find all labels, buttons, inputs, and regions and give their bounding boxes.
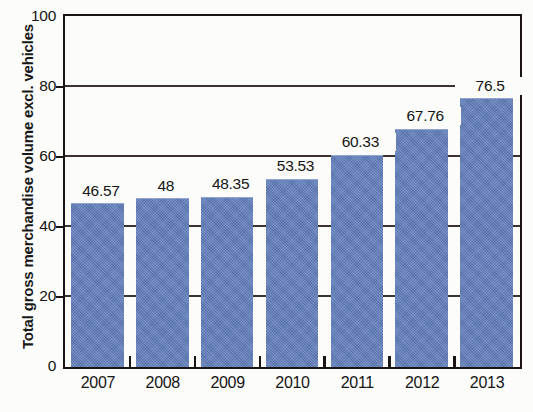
- x-axis-tick-label: 2008: [130, 374, 195, 392]
- bar-value-label: 53.53: [260, 157, 331, 175]
- bar[interactable]: [71, 203, 124, 367]
- x-axis-tick-label: 2009: [195, 374, 260, 392]
- y-axis-tick-label: 20: [10, 287, 56, 305]
- bar[interactable]: [266, 179, 319, 367]
- x-axis-tick-mark: [194, 356, 197, 367]
- bar[interactable]: [460, 98, 513, 367]
- x-axis-tick-mark: [388, 356, 391, 367]
- y-axis-tick-label: 100: [10, 7, 56, 25]
- x-axis-tick-label: 2007: [66, 374, 131, 392]
- x-axis-tick-label: 2011: [325, 374, 390, 392]
- y-axis-title: Total gross merchandise volume excl. veh…: [19, 7, 36, 367]
- x-axis-tick-label: 2012: [390, 374, 455, 392]
- y-axis-tick-label: 40: [10, 217, 56, 235]
- bar-value-label: 46.57: [66, 182, 137, 200]
- gridline: [65, 85, 520, 87]
- y-axis-tick-label: 0: [10, 357, 56, 375]
- x-axis-tick-mark: [259, 356, 262, 367]
- bar-value-label: 67.76: [390, 107, 461, 125]
- bar[interactable]: [136, 198, 189, 367]
- x-axis-tick-mark: [453, 356, 456, 367]
- bar-value-label: 48.35: [195, 175, 266, 193]
- y-axis-tick-label: 80: [10, 77, 56, 95]
- bar-value-label: 60.33: [325, 133, 396, 151]
- x-axis-tick-mark: [323, 356, 326, 367]
- bar[interactable]: [395, 129, 448, 367]
- x-axis-tick-mark: [129, 356, 132, 367]
- bar-chart-figure: Total gross merchandise volume excl. veh…: [0, 0, 533, 412]
- bar[interactable]: [331, 155, 384, 367]
- x-axis-tick-label: 2013: [455, 374, 520, 392]
- x-axis-tick-label: 2010: [260, 374, 325, 392]
- y-axis-tick-label: 60: [10, 147, 56, 165]
- bar[interactable]: [201, 197, 254, 367]
- bar-value-label: 48: [130, 177, 201, 195]
- bar-value-label: 76.5: [455, 77, 526, 95]
